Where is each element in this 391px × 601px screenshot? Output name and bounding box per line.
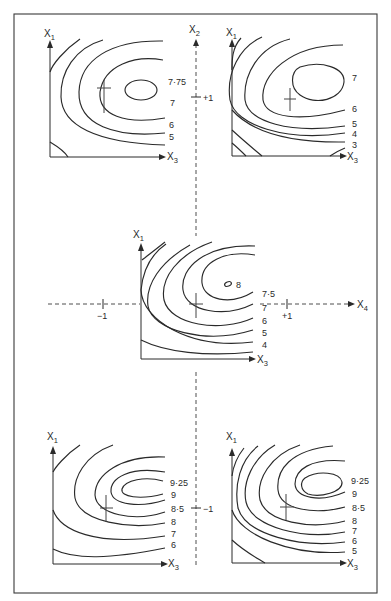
arrow-icon [161,561,168,567]
plot-bottom-right: X1 X3 9·25 9 8·5 8 7 6 5 [226,431,369,572]
y-axis-label: X1 [44,28,55,42]
contour-label: 8 [352,516,357,526]
plot-center: X1 X3 8 7·5 7 6 5 4 [133,229,275,368]
x2-tick-label-minus: −1 [203,504,213,514]
contour-label: 5 [262,328,267,338]
contour-label: 5 [352,119,357,129]
arrow-icon [340,153,347,159]
arrow-icon [249,356,256,362]
contour-label: 9 [171,490,176,500]
contour-label: 6 [352,104,357,114]
y-axis-label: X1 [133,229,144,243]
contour-label: 6 [262,316,267,326]
contour-label: 4 [262,340,267,350]
contour-label: 8 [171,517,176,527]
x-axis-label: X3 [168,558,179,572]
arrow-icon [50,446,56,454]
contour-label: 7·5 [262,289,275,299]
contour-label: 8·5 [171,504,184,514]
arrow-icon [340,560,347,566]
plot-top-left: X1 X3 7·75 7 6 5 [44,28,186,165]
y-axis-label: X1 [226,27,237,41]
contour-label: 6 [169,120,174,130]
arrow-icon [348,301,355,307]
contour-label: 7 [170,98,175,108]
contour-label: 6 [352,536,357,546]
contour-label: 7 [262,303,267,313]
contour-label: 5 [169,132,174,142]
x2-axis-label: X2 [189,24,200,38]
contour-label: 8·5 [352,503,365,513]
arrow-icon [193,39,199,46]
contour-label: 4 [352,129,357,139]
contour-label: 8 [236,280,241,290]
contour-label: 7 [352,526,357,536]
x-axis-label: X3 [347,151,358,165]
contour-label: 3 [352,140,357,150]
x4-tick-label-minus: −1 [97,311,107,321]
y-axis-label: X1 [47,431,58,445]
plot-bottom-left: X1 X3 9·25 9 8·5 8 7 6 [47,431,188,572]
arrow-icon [229,448,235,456]
contour-label: 6 [171,540,176,550]
x-axis-label: X3 [347,558,358,572]
contour-label: 9·25 [351,476,369,486]
contour-label: 7 [352,73,357,83]
contour-label: 9 [352,489,357,499]
contour-label: 5 [352,546,357,556]
contour-figure: X2 +1 −1 X4 −1 +1 X1 X3 7·75 7 [0,0,391,601]
contour-label: 7 [171,529,176,539]
x2-tick-label-plus: +1 [203,93,213,103]
x-axis-label: X3 [167,151,178,165]
x-axis-label: X3 [257,354,268,368]
contour-label: 7·75 [168,77,186,87]
x4-axis-label: X4 [357,299,368,313]
arrow-icon [159,154,166,160]
y-axis-label: X1 [226,431,237,445]
x4-tick-label-plus: +1 [282,311,292,321]
arrow-icon [138,243,144,251]
plot-top-right: X1 X3 7 6 5 4 3 [226,27,358,165]
contour-label: 9·25 [170,478,188,488]
